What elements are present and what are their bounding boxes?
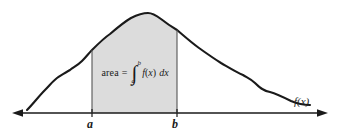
integrand-close-paren: ) — [153, 67, 156, 78]
integral-sign: ∫ b a — [131, 65, 137, 82]
differential-dx: dx — [159, 67, 168, 78]
axis-label-a: a — [87, 118, 93, 130]
function-label-fx: f(x) — [294, 96, 309, 107]
axis-arrow-left-icon — [12, 109, 23, 117]
formula-equals-sign: = — [122, 67, 128, 78]
formula-area-word: area — [101, 67, 118, 78]
definite-integral-figure: area = ∫ b a f(x) dx a b f(x) — [0, 0, 341, 140]
integral-lower-limit: a — [131, 79, 135, 85]
integral-upper-limit: b — [137, 61, 141, 67]
axis-arrow-right-icon — [317, 109, 328, 117]
axis-label-b: b — [172, 118, 178, 130]
integral-formula: area = ∫ b a f(x) dx — [93, 58, 177, 86]
